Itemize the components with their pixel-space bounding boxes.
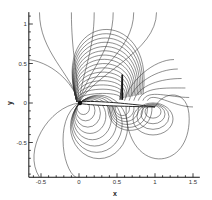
x-tick-label: 0.5: [113, 179, 122, 185]
x-tick-label: 1.5: [189, 179, 198, 185]
contour-line: [115, 105, 129, 115]
x-tick-label: 1: [153, 179, 157, 185]
contour-line: [79, 12, 157, 103]
y-tick-label: 1: [23, 21, 27, 27]
y-axis-label: y: [6, 101, 14, 105]
contour-line: [29, 60, 79, 103]
contour-line: [34, 103, 79, 177]
x-tick-label: -0.5: [36, 179, 47, 185]
contour-line: [114, 105, 134, 118]
x-tick-label: 0: [77, 179, 81, 185]
contour-line: [137, 104, 169, 130]
stagnation-point: [78, 101, 82, 105]
contour-line: [76, 81, 125, 102]
shock-wave: [120, 75, 123, 100]
y-tick-label: 0.5: [18, 61, 27, 67]
y-tick-label: 0: [23, 100, 27, 106]
contour-line: [143, 94, 189, 100]
contour-line: [141, 105, 165, 124]
contour-line: [112, 105, 138, 121]
y-tick-label: -0.5: [16, 140, 27, 146]
contour-lines: [29, 12, 193, 178]
x-axis-label: x: [113, 190, 117, 197]
contour-plot: -0.500.511.5-0.500.51 x y: [0, 0, 212, 200]
